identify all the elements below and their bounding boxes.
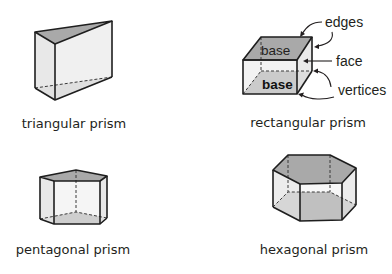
vertices-arrow-1: [317, 71, 331, 87]
top-base-label: base: [261, 43, 290, 58]
vertices-arrow-2: [302, 95, 334, 99]
hexagonal-front-face: [300, 183, 342, 221]
pentagonal-prism-label: pentagonal prism: [16, 242, 130, 257]
rectangular-prism-label: rectangular prism: [250, 115, 366, 130]
pentagonal-front-face: [54, 181, 100, 224]
face-label: face: [336, 53, 363, 69]
bottom-base-label: base: [262, 77, 293, 92]
vertices-label: vertices: [338, 82, 386, 98]
prisms-diagram: triangular prism base base: [0, 0, 392, 274]
edges-arrow-1: [302, 22, 322, 34]
pentagonal-prism-figure: [40, 170, 107, 224]
edges-arrow-2: [318, 32, 332, 46]
triangular-prism-figure: [35, 21, 112, 100]
edges-label: edges: [325, 14, 363, 30]
hexagonal-prism-figure: [273, 155, 356, 221]
triangular-prism-label: triangular prism: [22, 116, 126, 131]
hexagonal-prism-label: hexagonal prism: [260, 242, 368, 257]
